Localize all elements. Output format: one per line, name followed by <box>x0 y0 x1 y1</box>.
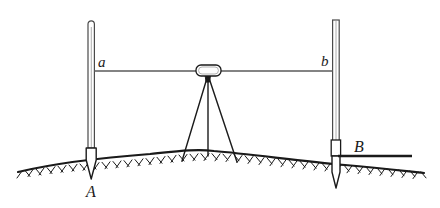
label-point-a: A <box>85 183 96 200</box>
ground-surface <box>17 150 426 178</box>
diagram-canvas: a b A B <box>0 0 440 208</box>
label-point-b: B <box>354 138 364 155</box>
tripod-leg-left <box>182 78 207 161</box>
right-leveling-staff <box>331 20 340 188</box>
label-reading-b: b <box>321 53 329 69</box>
tripod <box>182 76 237 162</box>
right-staff-collar <box>331 140 340 156</box>
tripod-leg-right <box>209 78 237 162</box>
tripod-head <box>206 76 211 82</box>
right-staff-shoe-icon <box>332 156 340 188</box>
label-reading-a: a <box>98 54 106 70</box>
left-leveling-staff <box>86 21 96 179</box>
leveling-diagram: a b A B <box>0 0 440 208</box>
left-staff-shoe-icon <box>86 148 96 179</box>
automatic-level-instrument <box>196 65 221 76</box>
instrument-body-inner <box>199 67 219 74</box>
